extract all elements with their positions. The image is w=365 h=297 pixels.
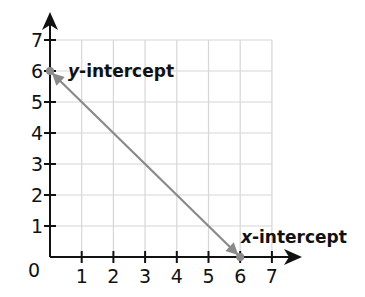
- y-tick-label: 5: [31, 91, 43, 113]
- y-tick-label: 3: [31, 153, 43, 175]
- x-tick-label: 5: [202, 265, 214, 287]
- y-intercept-label: y-intercept: [68, 61, 174, 81]
- x-tick-label: 6: [234, 265, 246, 287]
- x-tick-label: 2: [107, 265, 119, 287]
- x-tick-label: 4: [171, 265, 183, 287]
- x-tick-labels: 1234567: [76, 265, 278, 287]
- origin-label: 0: [28, 259, 40, 281]
- y-tick-labels: 1234567: [31, 29, 43, 237]
- intercept-point: [236, 253, 244, 261]
- x-intercept-label: x-intercept: [240, 227, 347, 247]
- intercept-point: [46, 67, 54, 75]
- annotations: y-interceptx-intercept: [68, 61, 347, 247]
- y-tick-label: 2: [31, 184, 43, 206]
- y-tick-label: 1: [31, 215, 43, 237]
- x-tick-label: 7: [266, 265, 278, 287]
- x-tick-label: 1: [76, 265, 88, 287]
- y-tick-label: 6: [31, 60, 43, 82]
- y-tick-label: 7: [31, 29, 43, 51]
- x-tick-label: 3: [139, 265, 151, 287]
- y-tick-label: 4: [31, 122, 43, 144]
- chart: 1234567 1234567 0 y-interceptx-intercept: [0, 0, 365, 297]
